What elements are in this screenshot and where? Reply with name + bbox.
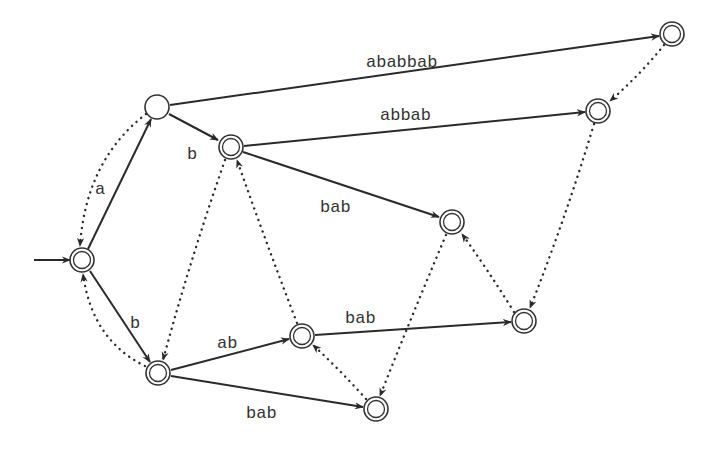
node-qbab2-accepting[interactable] — [512, 309, 536, 333]
node-qababbab-accepting[interactable] — [660, 22, 684, 46]
fail-qb-qB — [163, 160, 225, 360]
label-bab-qab: bab — [345, 309, 376, 328]
label-b-q0: b — [130, 314, 140, 333]
fail-qbab1-qbab3 — [380, 235, 446, 396]
label-abbab: abbab — [380, 106, 431, 125]
failure-links — [80, 45, 664, 399]
node-qabbab-accepting[interactable] — [586, 99, 610, 123]
fail-qbab2-qbab1 — [462, 234, 514, 312]
node-qbab3-accepting[interactable] — [364, 397, 388, 421]
label-a: a — [95, 180, 105, 199]
automaton-diagram: a b b ababbab abbab bab ab bab bab — [0, 0, 717, 450]
label-b-qa: b — [187, 145, 197, 164]
node-qbab1-accepting[interactable] — [440, 210, 464, 234]
node-qab-accepting[interactable] — [290, 324, 314, 348]
edge-qa-qb — [169, 114, 218, 140]
label-ab: ab — [217, 334, 237, 353]
fail-qa-q0 — [80, 114, 146, 246]
label-ababbab: ababbab — [366, 53, 437, 72]
label-bab-qB: bab — [246, 404, 277, 423]
node-qa[interactable] — [145, 95, 169, 119]
goto-edges — [88, 36, 659, 407]
node-qb-accepting[interactable] — [219, 135, 243, 159]
fail-qababbab-qabbab — [610, 45, 664, 101]
label-bab-qb: bab — [320, 198, 351, 217]
node-qB-accepting[interactable] — [146, 361, 170, 385]
node-q0-start-accepting[interactable] — [70, 248, 94, 272]
nodes — [70, 22, 684, 421]
fail-qabbab-qbab2 — [530, 124, 594, 308]
edge-qB-qbab3 — [171, 376, 363, 407]
fail-qab-qb — [237, 160, 297, 323]
fail-qbab3-qab — [313, 345, 366, 399]
